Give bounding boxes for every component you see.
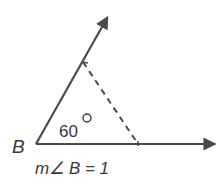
angle-caption: m∠ B = 1 [35,159,109,178]
vertex-label: B [12,136,25,157]
degree-symbol-icon [83,114,91,122]
angle-measure-label: 60 [59,122,78,141]
angle-diagram: B 60 m∠ B = 1 [0,0,224,187]
dashed-segment [83,62,138,144]
tick-mark-upper [82,62,88,63]
